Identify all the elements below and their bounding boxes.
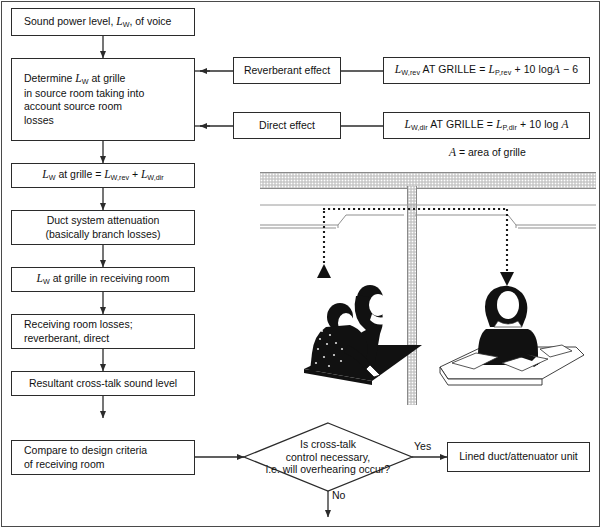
decision-label: Is cross-talkcontrol necessary,i.e. will…	[244, 423, 412, 491]
flow-box-duct-system-attenuation[interactable]: Duct system attenuation(basically branch…	[11, 210, 195, 245]
cross-talk-illustration	[258, 168, 598, 413]
outcome-box-lined-duct-attenuator[interactable]: Lined duct/attenuator unit	[447, 442, 590, 472]
effect-box-label: Direct effect	[234, 119, 340, 133]
diagram-canvas: Sound power level, LW, of voice Determin…	[0, 0, 601, 528]
listener-figure-group	[436, 283, 586, 393]
equation-note-area-of-grille: A = area of grille	[449, 146, 526, 158]
source-grille-arrow	[317, 264, 331, 278]
grille-throats	[338, 225, 516, 228]
equation-label: LW,rev AT GRILLE = LP,rev + 10 logA − 6	[384, 63, 589, 78]
flow-box-sound-power-level[interactable]: Sound power level, LW, of voice	[11, 8, 195, 36]
equation-box-direct[interactable]: LW,dir AT GRILLE = LP,dir + 10 log A	[383, 112, 590, 139]
effect-box-reverberant[interactable]: Reverberant effect	[233, 57, 341, 84]
branch-label-yes: Yes	[414, 440, 431, 452]
talkers-figure-group	[296, 283, 426, 393]
flow-box-label: Compare to design criteriaof receiving r…	[12, 444, 194, 471]
branch-label-no: No	[332, 489, 345, 501]
flow-box-receiving-room-losses[interactable]: Receiving room losses;reverberant, direc…	[11, 314, 195, 349]
flow-box-compare-to-design-criteria[interactable]: Compare to design criteriaof receiving r…	[11, 440, 195, 475]
effect-box-label: Reverberant effect	[234, 64, 340, 78]
flow-box-label: Resultant cross-talk sound level	[12, 377, 194, 391]
flow-box-label: Sound power level, LW, of voice	[12, 15, 194, 30]
flow-box-label: Determine LW at grille in source room ta…	[12, 72, 194, 127]
flow-box-lw-at-receiving-grille[interactable]: LW at grille in receiving room	[11, 267, 195, 292]
sound-path-dotted	[323, 209, 507, 272]
flow-box-label: LW at grille in receiving room	[12, 272, 194, 287]
duct-outline	[260, 215, 596, 228]
outcome-box-label: Lined duct/attenuator unit	[448, 450, 589, 464]
flow-box-label: Receiving room losses;reverberant, direc…	[12, 318, 194, 345]
flow-box-determine-lw-at-grille[interactable]: Determine LW at grille in source room ta…	[11, 58, 195, 141]
equation-label: LW,dir AT GRILLE = LP,dir + 10 log A	[384, 118, 589, 133]
flow-box-label: Duct system attenuation(basically branch…	[12, 214, 194, 241]
flow-box-resultant-cross-talk-level[interactable]: Resultant cross-talk sound level	[11, 371, 195, 396]
decision-node-cross-talk-control[interactable]: Is cross-talkcontrol necessary,i.e. will…	[244, 423, 412, 491]
effect-box-direct[interactable]: Direct effect	[233, 112, 341, 139]
flow-box-lw-at-grille-sum[interactable]: LW at grille = LW,rev + LW,dir	[11, 163, 195, 188]
equation-box-reverberant[interactable]: LW,rev AT GRILLE = LP,rev + 10 logA − 6	[383, 57, 590, 84]
flow-box-label: LW at grille = LW,rev + LW,dir	[12, 168, 194, 183]
